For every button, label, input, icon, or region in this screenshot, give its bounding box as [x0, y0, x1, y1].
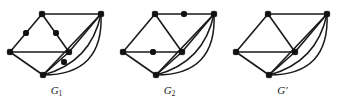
vertex-top-left [152, 11, 157, 16]
subdivision-dot-1 [151, 50, 156, 55]
caption-base: G [164, 84, 172, 96]
edge-top-left-center [268, 14, 295, 52]
subdivision-dot-2 [62, 60, 67, 65]
edge-left-bottom [123, 52, 156, 75]
edge-left-bottom [10, 52, 43, 75]
vertex-bottom [40, 72, 45, 77]
edge-top-right-bottom [156, 14, 214, 75]
vertex-bottom [153, 72, 158, 77]
edge-top-left-center [155, 14, 182, 52]
vertex-left [120, 49, 125, 54]
vertex-top-right [324, 11, 329, 16]
graph-drawing-G2 [113, 0, 226, 86]
vertex-top-left [265, 11, 270, 16]
subdivision-dot-0 [24, 31, 29, 36]
edge-top-left-left [123, 14, 155, 52]
panel-caption-G2: G2 [113, 84, 226, 98]
vertex-top-left [39, 11, 44, 16]
vertex-top-right [98, 11, 103, 16]
panel-caption-Gprime: G′ [226, 84, 338, 96]
subdivision-dot-0 [182, 12, 187, 17]
vertex-top-right [211, 11, 216, 16]
edge-top-right-bottom [43, 14, 101, 75]
vertex-center [292, 49, 297, 54]
vertex-center [179, 49, 184, 54]
graph-panel-G1: G1 [0, 0, 113, 104]
vertex-center [66, 49, 71, 54]
caption-subscript: 1 [59, 89, 63, 98]
vertex-bottom [266, 72, 271, 77]
graph-panel-G2: G2 [113, 0, 226, 104]
vertex-left [233, 49, 238, 54]
edge-top-right-bottom [269, 14, 327, 75]
edge-left-bottom [236, 52, 269, 75]
graph-panel-Gprime: G′ [226, 0, 338, 104]
vertex-left [7, 49, 12, 54]
caption-subscript: 2 [172, 89, 176, 98]
graph-drawing-G1 [0, 0, 113, 86]
graph-figure: G1G2G′ [0, 0, 338, 104]
graph-drawing-Gprime [226, 0, 338, 86]
caption-prime: ′ [285, 84, 287, 96]
caption-base: G [51, 84, 59, 96]
edge-top-left-left [236, 14, 268, 52]
panel-caption-G1: G1 [0, 84, 113, 98]
subdivision-dot-1 [54, 31, 59, 36]
